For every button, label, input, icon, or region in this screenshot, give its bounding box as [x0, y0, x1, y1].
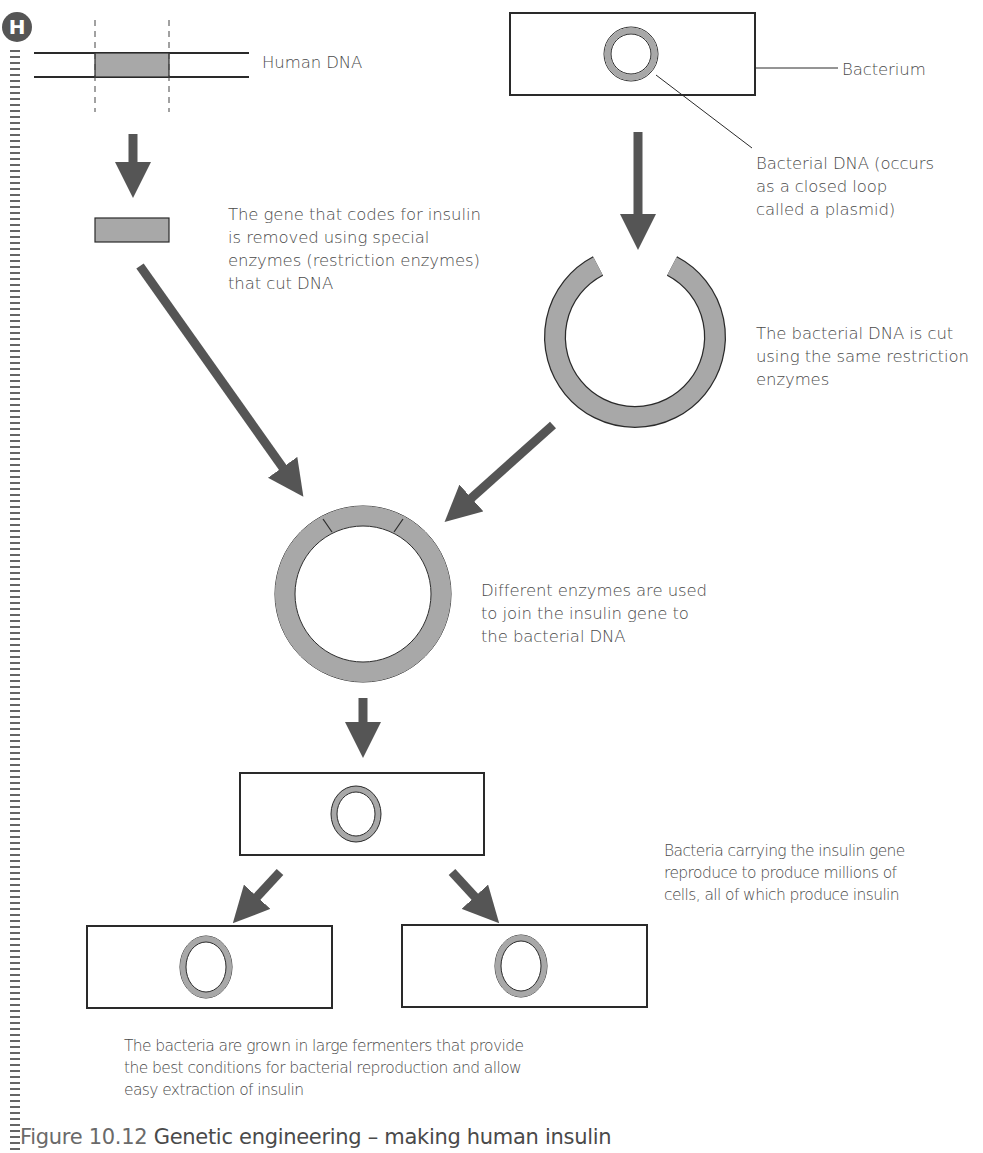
figure-title: Genetic engineering – making human insul…	[154, 1125, 612, 1149]
recombinant-plasmid	[275, 506, 451, 682]
arrow-split-left	[245, 872, 280, 910]
bacterium	[510, 13, 838, 148]
offspring-bacterium-right	[402, 925, 647, 1007]
figure-caption: Figure 10.12 Genetic engineering – makin…	[20, 1125, 611, 1149]
cut-plasmid	[555, 266, 715, 417]
arrow-cut-to-plasmid	[458, 425, 553, 510]
label-bacterium: Bacterium	[842, 58, 926, 81]
arrow-gene-to-plasmid	[140, 266, 293, 482]
label-fermenters: The bacteria are grown in large fermente…	[124, 1035, 523, 1101]
insulin-gene	[95, 218, 169, 242]
label-bacterial-dna: Bacterial DNA (occurs as a closed loop c…	[756, 152, 934, 221]
figure-number: Figure 10.12	[20, 1125, 147, 1149]
offspring-bacterium-left	[87, 926, 332, 1008]
label-join: Different enzymes are used to join the i…	[481, 579, 707, 648]
label-human-dna: Human DNA	[262, 51, 362, 74]
label-reproduce: Bacteria carrying the insulin gene repro…	[664, 840, 905, 906]
label-gene-removed: The gene that codes for insulin is remov…	[228, 203, 481, 295]
arrow-split-right	[452, 872, 487, 910]
human-dna-strand	[34, 20, 249, 112]
recombinant-bacterium	[240, 773, 484, 855]
label-bacterial-cut: The bacterial DNA is cut using the same …	[756, 322, 969, 391]
